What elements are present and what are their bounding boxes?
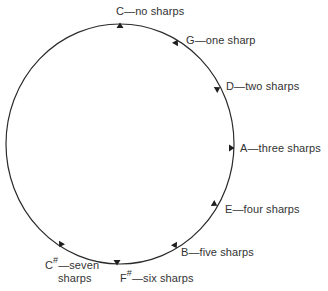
sharp-count-text: three sharps <box>259 142 321 154</box>
note-name: D <box>226 80 234 92</box>
dash: — <box>58 259 69 271</box>
key-circle <box>6 24 234 264</box>
dash: — <box>188 246 199 258</box>
dash: — <box>247 142 258 154</box>
key-markers <box>56 23 234 266</box>
dash: — <box>195 34 206 46</box>
key-label-a: A—three sharps <box>240 142 321 155</box>
key-label-e: E—four sharps <box>225 203 300 216</box>
key-marker-c-icon <box>117 23 124 29</box>
key-label-g: G—one sharp <box>186 34 256 47</box>
sharp-count-text: five sharps <box>200 246 254 258</box>
key-marker-e-icon <box>211 200 219 209</box>
sharp-sign: # <box>127 268 132 278</box>
key-label-d: D—two sharps <box>226 80 299 93</box>
key-label-b: B—five sharps <box>181 246 254 259</box>
note-name: C <box>45 259 53 271</box>
sharp-count-text: four sharps <box>244 203 300 215</box>
dash: — <box>124 5 135 17</box>
dash: — <box>232 203 243 215</box>
sharp-sign: # <box>53 255 58 265</box>
sharp-count-text: no sharps <box>135 5 184 17</box>
sharp-count-text: two sharps <box>245 80 299 92</box>
sharp-count-text: six sharps <box>143 272 194 284</box>
note-name: F <box>120 272 127 284</box>
note-name: G <box>186 34 195 46</box>
sharp-count-text: seven <box>69 259 99 271</box>
dash: — <box>132 272 143 284</box>
note-name: C <box>116 5 124 17</box>
key-label-f-sharp: F#—six sharps <box>120 272 194 285</box>
dash: — <box>234 80 245 92</box>
sharp-count-text: one sharp <box>206 34 256 46</box>
key-marker-f-sharp-icon <box>114 260 121 266</box>
key-label-c-sharp: C#—seven sharps <box>45 259 99 285</box>
key-label-c: C—no sharps <box>116 5 184 18</box>
sharp-count-text-line2: sharps <box>45 272 99 285</box>
